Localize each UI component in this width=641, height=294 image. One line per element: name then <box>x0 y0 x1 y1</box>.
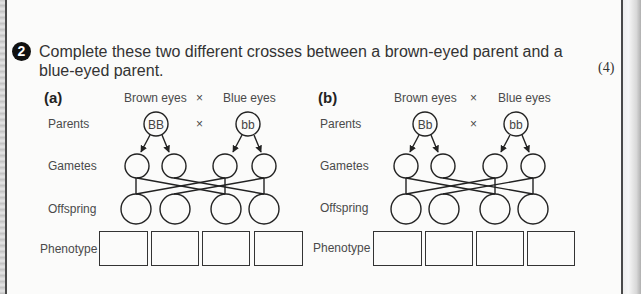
part-b-offspring-1 <box>391 194 421 224</box>
part-a-gamete-3 <box>213 154 237 178</box>
part-b-phenotype-box-4[interactable] <box>527 231 575 266</box>
part-a-offspring-2 <box>160 194 190 224</box>
part-a-offspring-4 <box>249 194 279 224</box>
part-b-offspring-3 <box>480 194 510 224</box>
part-a-phenotype-box-2[interactable] <box>151 231 199 266</box>
cross-b-diagram <box>391 112 548 224</box>
part-b-offspring-4 <box>518 194 548 224</box>
part-a-offspring-1 <box>121 194 151 224</box>
part-b-gamete-2 <box>431 154 455 178</box>
part-b-phenotype-box-2[interactable] <box>425 231 473 266</box>
part-a-phenotype-box-4[interactable] <box>254 231 303 266</box>
part-a-phenotype-box-1[interactable] <box>99 231 148 266</box>
part-b-phenotype-box-1[interactable] <box>373 231 422 266</box>
part-b-gamete-1 <box>394 154 418 178</box>
part-a-gamete-1 <box>125 154 149 178</box>
part-b-gamete-3 <box>483 154 507 178</box>
part-a-phenotype-box-3[interactable] <box>202 231 250 266</box>
part-b-phenotype-box-3[interactable] <box>476 231 524 266</box>
part-b-parent2-genotype: bb <box>509 118 523 132</box>
part-b-offspring-2 <box>429 194 459 224</box>
part-b-parent1-genotype: Bb <box>418 118 433 132</box>
part-b-gamete-4 <box>521 154 545 178</box>
part-a-offspring-3 <box>211 194 241 224</box>
part-a-gamete-2 <box>162 154 186 178</box>
part-a-parent1-genotype: BB <box>148 118 164 132</box>
cross-a-diagram <box>121 112 279 224</box>
part-a-gamete-4 <box>252 154 276 178</box>
part-a-parent2-genotype: bb <box>241 118 255 132</box>
